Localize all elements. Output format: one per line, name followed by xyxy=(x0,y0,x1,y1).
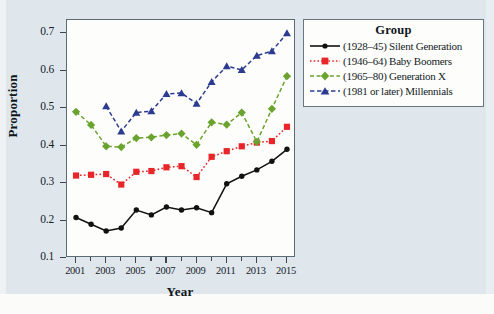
data-point-square xyxy=(224,148,230,154)
data-point-circle xyxy=(164,204,169,209)
y-axis-tick xyxy=(60,32,66,33)
data-point-square xyxy=(133,169,139,175)
x-axis-tick xyxy=(165,257,166,263)
series-genx xyxy=(72,72,291,151)
legend-label-genx: (1965–80) Generation X xyxy=(343,70,446,82)
data-point-circle xyxy=(73,215,78,220)
x-axis-tick xyxy=(181,257,182,261)
x-axis-title: Year xyxy=(120,284,240,300)
data-point-square xyxy=(193,174,199,180)
series-canvas xyxy=(67,20,296,258)
legend-title: Group xyxy=(304,23,483,38)
data-point-square xyxy=(269,138,275,144)
legend-item-genx[interactable]: (1965–80) Generation X xyxy=(304,68,483,83)
page-edge-bottom xyxy=(0,294,494,314)
x-axis-tick xyxy=(135,257,136,263)
data-point-circle xyxy=(239,174,244,179)
x-axis-tick xyxy=(105,257,106,263)
data-point-square xyxy=(163,164,169,170)
data-point-circle xyxy=(179,207,184,212)
y-axis-title: Proportion xyxy=(5,46,21,166)
data-point-triangle xyxy=(193,100,201,107)
data-point-circle xyxy=(149,212,154,217)
y-axis-tick xyxy=(60,107,66,108)
data-point-circle xyxy=(88,222,93,227)
y-axis-tick-label: 0.7 xyxy=(28,25,54,37)
legend-key-millennials xyxy=(309,84,341,98)
y-axis-tick-label: 0.1 xyxy=(28,250,54,262)
x-axis-tick xyxy=(90,257,91,261)
legend-label-millennials: (1981 or later) Millennials xyxy=(343,85,453,97)
x-axis-tick xyxy=(241,257,242,261)
data-point-circle xyxy=(119,225,124,230)
y-axis-tick-label: 0.6 xyxy=(28,63,54,75)
data-point-diamond xyxy=(268,105,276,113)
data-point-circle xyxy=(194,205,199,210)
x-axis-tick xyxy=(150,257,151,261)
x-axis-tick-label: 2013 xyxy=(239,265,273,276)
legend-item-silent[interactable]: (1928–45) Silent Generation xyxy=(304,38,483,53)
x-axis-tick-label: 2001 xyxy=(58,265,92,276)
legend-item-millennials[interactable]: (1981 or later) Millennials xyxy=(304,83,483,98)
data-point-square xyxy=(118,181,124,187)
data-point-square xyxy=(239,143,245,149)
data-point-diamond xyxy=(177,129,185,137)
chart-figure: 0.10.20.30.40.50.60.72001200320052007200… xyxy=(0,0,494,314)
data-point-square xyxy=(148,168,154,174)
y-axis-tick xyxy=(60,145,66,146)
data-point-triangle xyxy=(283,29,291,36)
series-line-millennials xyxy=(106,33,287,131)
y-axis-tick-label: 0.4 xyxy=(28,138,54,150)
series-line-silent xyxy=(76,149,287,231)
data-point-diamond xyxy=(147,133,155,141)
data-point-triangle xyxy=(102,102,110,109)
x-axis-tick xyxy=(120,257,121,261)
x-axis-tick xyxy=(211,257,212,261)
data-point-circle xyxy=(134,207,139,212)
data-point-circle xyxy=(103,228,108,233)
page-edge-right xyxy=(486,0,494,314)
series-silent xyxy=(73,147,289,234)
data-point-triangle xyxy=(268,47,276,54)
y-axis-tick xyxy=(60,70,66,71)
x-axis-tick xyxy=(286,257,287,263)
x-axis-tick-label: 2011 xyxy=(209,265,243,276)
data-point-triangle xyxy=(162,90,170,97)
data-point-triangle xyxy=(117,127,125,134)
data-point-triangle xyxy=(208,78,216,85)
data-point-triangle xyxy=(223,62,231,69)
series-millennials xyxy=(102,29,291,134)
data-point-square xyxy=(88,172,94,178)
data-point-square xyxy=(103,171,109,177)
y-axis-tick xyxy=(60,182,66,183)
data-point-diamond xyxy=(132,134,140,142)
legend-key-genx xyxy=(309,69,341,83)
data-point-square xyxy=(209,154,215,160)
y-axis-tick xyxy=(60,220,66,221)
plot-area xyxy=(66,19,295,257)
data-point-diamond xyxy=(223,120,231,128)
x-axis-tick xyxy=(196,257,197,263)
y-axis-tick-label: 0.2 xyxy=(28,213,54,225)
data-point-square xyxy=(178,163,184,169)
legend-key-silent xyxy=(309,39,341,53)
y-axis-tick-label: 0.5 xyxy=(28,100,54,112)
data-point-circle xyxy=(284,147,289,152)
data-point-circle xyxy=(224,181,229,186)
data-point-diamond xyxy=(208,118,216,126)
data-point-diamond xyxy=(283,72,291,80)
x-axis-tick xyxy=(271,257,272,261)
legend-label-boomers: (1946–64) Baby Boomers xyxy=(343,55,452,67)
data-point-diamond xyxy=(162,131,170,139)
x-axis-tick-label: 2015 xyxy=(269,265,303,276)
data-point-square xyxy=(73,172,79,178)
data-point-circle xyxy=(209,210,214,215)
legend-key-boomers xyxy=(309,54,341,68)
legend-item-boomers[interactable]: (1946–64) Baby Boomers xyxy=(304,53,483,68)
data-point-diamond xyxy=(117,143,125,151)
data-point-triangle xyxy=(147,107,155,114)
x-axis-tick-label: 2005 xyxy=(118,265,152,276)
x-axis-tick-label: 2003 xyxy=(88,265,122,276)
x-axis-tick-label: 2009 xyxy=(179,265,213,276)
y-axis-tick xyxy=(60,257,66,258)
